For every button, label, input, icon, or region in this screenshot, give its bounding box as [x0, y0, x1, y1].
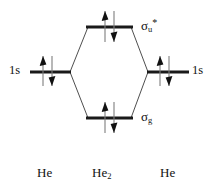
- correlation-left-lower: [70, 72, 88, 118]
- sigma-u-superscript: *: [152, 17, 157, 28]
- species-label-right: He: [160, 166, 175, 181]
- species-center-subscript: 2: [107, 171, 111, 181]
- correlation-left-upper: [70, 27, 88, 72]
- orbital-label-sigma-g: σg: [141, 110, 152, 124]
- correlation-lines: [70, 27, 148, 118]
- mo-energy-diagram: σu* σg 1s 1s He He2 He: [0, 0, 218, 192]
- sigma-g-symbol: σ: [141, 109, 148, 124]
- diagram-canvas: [0, 0, 218, 192]
- correlation-right-upper: [131, 27, 148, 72]
- atomic-orbital-label-left: 1s: [9, 64, 20, 77]
- species-center-formula: He: [92, 165, 107, 180]
- species-label-center: He2: [92, 166, 111, 181]
- species-left-formula: He: [37, 165, 52, 180]
- species-right-formula: He: [160, 165, 175, 180]
- species-label-left: He: [37, 166, 52, 181]
- orbital-label-sigma-u-star: σu*: [141, 18, 157, 33]
- sigma-u-symbol: σ: [141, 18, 148, 33]
- sigma-g-subscript: g: [148, 115, 152, 125]
- atomic-orbital-label-right: 1s: [192, 64, 203, 77]
- energy-levels: [30, 27, 189, 118]
